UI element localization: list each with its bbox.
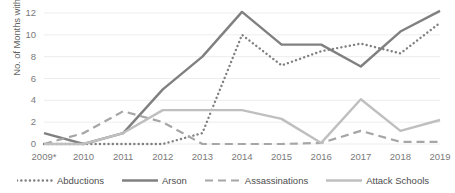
legend-label: Abductions (57, 175, 104, 186)
series-line-abductions (44, 23, 440, 144)
series-line-arson (44, 11, 440, 144)
solid-line-icon (122, 176, 158, 185)
legend-item-abductions[interactable]: Abductions (17, 175, 104, 186)
legend-label: Assassinations (245, 175, 308, 186)
solid-light-line-icon (326, 176, 362, 185)
legend-item-arson[interactable]: Arson (122, 175, 187, 186)
legend-label: Arson (162, 175, 187, 186)
chart-legend: AbductionsArsonAssassinationsAttack Scho… (0, 170, 446, 190)
legend-item-assassinations[interactable]: Assassinations (205, 175, 308, 186)
legend-item-attack-schools[interactable]: Attack Schools (326, 175, 429, 186)
legend-label: Attack Schools (366, 175, 429, 186)
dashed-line-icon (205, 176, 241, 185)
dotted-line-icon (17, 176, 53, 185)
